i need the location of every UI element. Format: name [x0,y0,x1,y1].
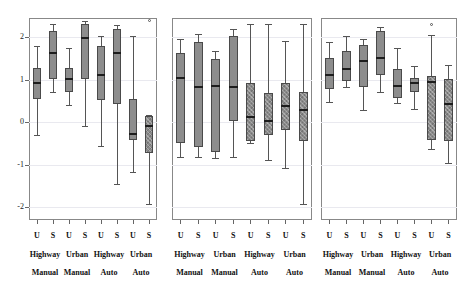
x-axis-category-label: S [147,231,151,240]
whisker-lower [414,92,415,109]
median-line [97,74,105,76]
box-s [145,116,153,153]
median-line [246,116,255,118]
whisker-upper [303,24,304,91]
x-axis-tick [198,220,199,224]
whisker-cap-upper [394,48,400,49]
whisker-lower [69,92,70,106]
median-line [342,68,351,70]
x-axis-tick [303,220,304,224]
plot-panel-2 [172,18,312,220]
boxplot-figure: 210-1-2USUSUSUSHighwayUrbanHighwayUrbanM… [0,0,463,290]
median-line [427,81,436,83]
x-axis-group-label: Highway [323,250,354,259]
whisker-cap-lower [177,157,184,158]
median-line [264,120,273,122]
median-line [325,74,334,76]
gridline [321,207,457,208]
box-u [359,45,368,88]
x-axis-group-label: Urban [66,250,88,259]
gridline [321,165,457,166]
x-axis-category-label: U [395,231,401,240]
x-axis-category-label: S [51,231,55,240]
whisker-cap-lower [326,102,332,103]
whisker-cap-lower [394,103,400,104]
x-axis-condition-label: Auto [286,268,303,277]
median-line [281,105,290,107]
x-axis-tick [397,220,398,224]
whisker-lower [180,143,181,157]
x-axis-category-label: S [83,231,87,240]
x-axis-tick [285,220,286,224]
x-axis-category-label: U [213,231,219,240]
whisker-cap-upper [411,66,417,67]
whisker-lower [149,153,150,204]
x-axis-group-label: Highway [391,250,422,259]
whisker-lower [346,81,347,88]
whisker-upper [329,42,330,57]
whisker-upper [133,36,134,99]
whisker-lower [133,140,134,172]
x-axis-category-label: U [429,231,435,240]
x-axis-category-label: S [196,231,200,240]
x-axis-tick [431,220,432,224]
x-axis-category-label: U [283,231,289,240]
x-axis-group-label: Highway [174,250,205,259]
x-axis-category-label: U [34,231,40,240]
whisker-cap-lower [428,149,434,150]
x-axis-tick [346,220,347,224]
whisker-cap-lower [114,184,120,185]
whisker-cap-upper [34,46,40,47]
box-s [113,29,121,104]
x-axis-condition-label: Auto [133,268,150,277]
whisker-cap-upper [177,39,184,40]
x-axis-category-label: S [115,231,119,240]
x-axis-condition-label: Manual [325,268,352,277]
x-axis-category-label: U [98,231,104,240]
x-axis-category-label: U [178,231,184,240]
x-axis-condition-label: Manual [211,268,238,277]
whisker-upper [37,46,38,67]
y-axis-tick [25,80,29,81]
x-axis-tick [268,220,269,224]
x-axis-group-label: Urban [429,250,451,259]
box-s [299,92,308,142]
y-axis-tick-label: -2 [17,203,24,211]
whisker-cap-lower [282,168,289,169]
whisker-cap-lower [445,163,451,164]
whisker-cap-lower [377,92,383,93]
y-axis-tick [25,37,29,38]
whisker-lower [285,130,286,168]
x-axis-category-label: U [327,231,333,240]
whisker-cap-upper [66,48,72,49]
whisker-lower [380,75,381,92]
whisker-cap-lower [98,146,104,147]
y-axis-tick [25,122,29,123]
x-axis-tick [250,220,251,224]
whisker-cap-upper [428,35,434,36]
box-s [342,51,351,81]
median-line [376,57,385,59]
whisker-cap-upper [445,65,451,66]
box-s [194,42,203,147]
whisker-lower [363,87,364,110]
x-axis-tick [117,220,118,224]
box-s [81,24,89,79]
whisker-cap-lower [230,157,237,158]
x-axis-tick [180,220,181,224]
median-line [81,37,89,39]
plot-panel-1: 210-1-2 [29,18,157,220]
whisker-cap-lower [265,160,272,161]
whisker-cap-upper [265,24,272,25]
x-axis-tick [69,220,70,224]
x-axis-tick [414,220,415,224]
whisker-cap-upper [114,25,120,26]
whisker-lower [85,79,86,127]
box-s [444,79,453,142]
y-axis-tick-label: -1 [17,161,24,169]
x-axis-tick [233,220,234,224]
x-axis-tick [448,220,449,224]
y-axis-tick-label: 2 [20,33,24,41]
box-s [264,93,273,135]
x-axis-category-label: S [446,231,450,240]
